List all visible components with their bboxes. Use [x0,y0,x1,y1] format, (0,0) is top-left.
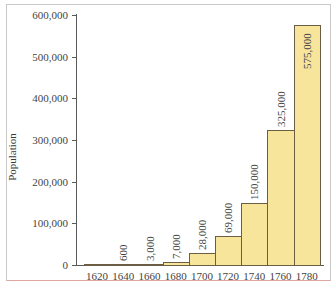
bar-value-label: 3,000 [144,236,156,261]
y-tick-label: 400,000 [20,92,68,104]
bar-1700 [189,253,216,266]
bar-1720 [215,236,242,266]
bar-1620 [84,264,111,267]
bar-value-label: 150,000 [248,164,260,200]
bar-1760 [267,130,294,266]
bar-value-label: 28,000 [196,220,208,250]
bar-1740 [241,203,268,267]
y-tick-mark [72,140,77,141]
bar-1660 [136,264,163,267]
bar-value-label: 575,000 [301,33,313,69]
y-tick-label: 500,000 [20,51,68,63]
y-tick-label: 200,000 [20,176,68,188]
y-tick-mark [72,182,77,183]
bar-value-label: 69,000 [222,203,234,233]
y-tick-label: 600,000 [20,9,68,21]
y-axis-label: Population [6,117,20,197]
bar-value-label: 325,000 [275,91,287,127]
y-tick-label: 300,000 [20,134,68,146]
y-tick-mark [72,15,77,16]
y-tick-label: 100,000 [20,217,68,229]
bar-value-label: 7,000 [170,234,182,259]
x-tick-label: 1780 [292,270,322,282]
y-tick-mark [72,265,77,266]
y-tick-label: 0 [20,259,68,271]
bar-1680 [163,262,190,266]
y-tick-mark [72,57,77,58]
bar-1640 [110,264,137,267]
y-tick-mark [72,98,77,99]
y-tick-mark [72,223,77,224]
bar-value-label: 600 [117,244,129,261]
